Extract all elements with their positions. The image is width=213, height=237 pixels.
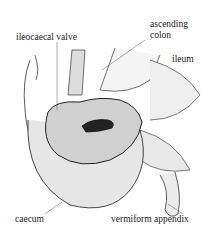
label-ascending-colon-line2: colon [150, 31, 171, 41]
label-ileum: ileum [172, 55, 194, 65]
label-caecum: caecum [15, 215, 44, 225]
label-vermiform-appendix: vermiform appendix [111, 215, 189, 225]
label-ileocaecal-valve: ileocaecal valve [16, 33, 77, 43]
label-ascending-colon-line1: ascending [150, 20, 188, 30]
